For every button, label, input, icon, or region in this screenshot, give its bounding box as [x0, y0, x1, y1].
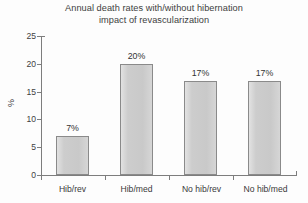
y-tick-20: [37, 64, 41, 65]
bar-no-hib-rev: [184, 81, 217, 176]
x-tick-1: [105, 175, 106, 180]
y-tick-10: [37, 119, 41, 120]
bar-hib-med: [120, 64, 153, 175]
y-tick-label-10: 10: [26, 115, 36, 124]
y-axis-title: %: [6, 88, 16, 118]
bar-hib-rev: [56, 136, 89, 175]
x-tick-3: [233, 175, 234, 180]
y-tick-label-15: 15: [26, 88, 36, 97]
y-axis-end-cap: [41, 36, 45, 37]
bar-no-hib-med: [248, 81, 281, 176]
bar-value-no-hib-med: 17%: [238, 69, 291, 78]
bar-value-hib-med: 20%: [110, 52, 163, 61]
y-tick-label-0: 0: [31, 171, 36, 180]
chart-title-line-2: impact of revascularization: [0, 15, 308, 27]
y-tick-label-5: 5: [31, 143, 36, 152]
x-axis-end-cap: [296, 171, 297, 176]
bar-value-hib-rev: 7%: [46, 124, 99, 133]
x-tick-label-hib-rev: Hib/rev: [46, 185, 99, 194]
y-tick-label-20: 20: [26, 60, 36, 69]
chart-title: Annual death rates with/without hibernat…: [0, 3, 308, 26]
y-tick-15: [37, 92, 41, 93]
y-tick-label-25: 25: [26, 32, 36, 41]
y-axis-line: [41, 36, 42, 175]
chart-title-line-1: Annual death rates with/without hibernat…: [0, 3, 308, 15]
y-tick-25: [37, 36, 41, 37]
x-tick-label-no-hib-rev: No hib/rev: [172, 185, 231, 194]
bar-chart: Annual death rates with/without hibernat…: [0, 0, 308, 203]
x-tick-label-no-hib-med: No hib/med: [236, 185, 295, 194]
bar-value-no-hib-rev: 17%: [174, 69, 227, 78]
y-tick-5: [37, 147, 41, 148]
x-tick-2: [169, 175, 170, 180]
x-tick-label-hib-med: Hib/med: [110, 185, 163, 194]
x-tick-0: [41, 175, 42, 180]
